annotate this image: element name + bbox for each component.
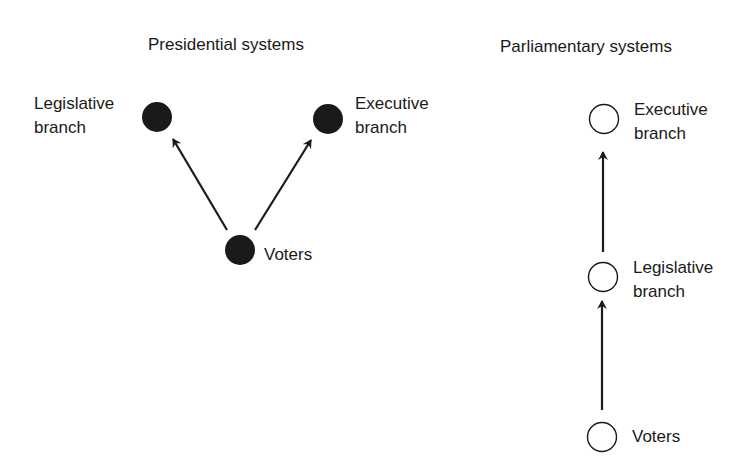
presidential-executive-node [313,104,343,134]
presidential-executive-label-line1: Executive [355,92,429,116]
presidential-arrow-voters-to-executive [255,140,311,230]
parliamentary-legislative-label-line1: Legislative [633,256,713,280]
diagram-canvas [0,0,750,462]
parliamentary-executive-node [590,105,619,134]
presidential-voters-label-line1: Voters [264,243,312,267]
presidential-arrow-voters-to-legislative [173,139,227,230]
parliamentary-executive-label: Executive branch [634,98,708,146]
parliamentary-legislative-label-line2: branch [633,280,713,304]
parliamentary-voters-node [588,423,617,452]
presidential-executive-label-line2: branch [355,116,429,140]
presidential-voters-label: Voters [264,243,312,267]
parliamentary-voters-label: Voters [632,425,680,449]
parliamentary-executive-label-line2: branch [634,122,708,146]
presidential-executive-label: Executive branch [355,92,429,140]
presidential-legislative-label-line2: branch [34,116,114,140]
presidential-voters-node [225,235,255,265]
presidential-legislative-label: Legislative branch [34,92,114,140]
presidential-legislative-label-line1: Legislative [34,92,114,116]
presidential-legislative-node [142,102,172,132]
parliamentary-legislative-node [589,263,618,292]
parliamentary-title: Parliamentary systems [500,37,672,57]
parliamentary-voters-label-line1: Voters [632,425,680,449]
presidential-title: Presidential systems [148,35,304,55]
parliamentary-executive-label-line1: Executive [634,98,708,122]
parliamentary-legislative-label: Legislative branch [633,256,713,304]
